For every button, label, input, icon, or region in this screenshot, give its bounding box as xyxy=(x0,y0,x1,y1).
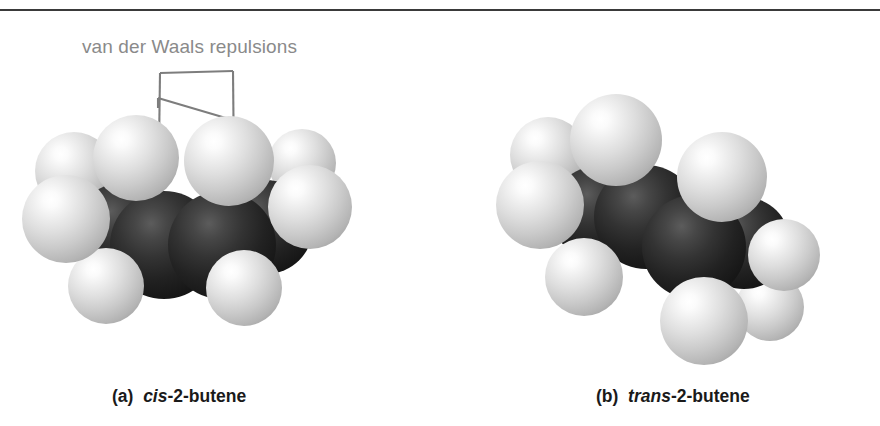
top-horizontal-rule xyxy=(0,9,880,11)
atom-vinyl-H-left-top xyxy=(570,94,662,186)
atom-vinyl-H-right xyxy=(184,116,274,206)
atom-methyl-H-right-front xyxy=(748,219,820,291)
atom-methyl-H-left-front xyxy=(496,161,584,249)
atom-vinyl-H-left xyxy=(93,115,179,201)
atom-methyl-H-left-front xyxy=(22,175,110,263)
caption-stereo-cis: cis xyxy=(143,386,167,406)
atom-methyl-H-right-lower xyxy=(206,250,282,326)
atom-methyl-H-right-upper xyxy=(677,132,767,222)
caption-rest-a: -2-butene xyxy=(167,386,246,406)
atom-methyl-H-left-lower xyxy=(545,238,623,316)
atom-vinyl-H-right-bottom xyxy=(660,277,748,365)
caption-trans-2-butene: (b) trans-2-butene xyxy=(596,386,750,407)
atom-methyl-H-right-front xyxy=(268,165,352,249)
figure-container: van der Waals repulsions (a) cis-2-buten… xyxy=(0,0,880,426)
caption-cis-2-butene: (a) cis-2-butene xyxy=(112,386,246,407)
leader-top-bar xyxy=(160,71,233,73)
caption-tag-b: (b) xyxy=(596,386,618,406)
caption-rest-b: -2-butene xyxy=(671,386,750,406)
caption-tag-a: (a) xyxy=(112,386,133,406)
van-der-waals-repulsions-label: van der Waals repulsions xyxy=(82,36,297,58)
space-filling-model-cis-2-butene xyxy=(14,95,354,355)
space-filling-model-trans-2-butene xyxy=(498,95,838,355)
caption-stereo-trans: trans xyxy=(628,386,671,406)
